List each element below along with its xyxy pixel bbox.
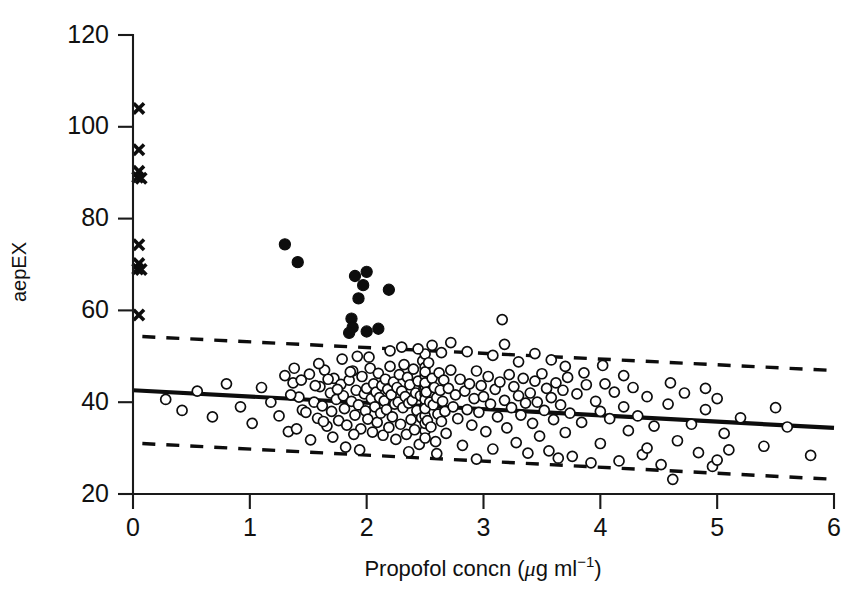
data-point-open [368, 427, 378, 437]
data-point-open [502, 423, 512, 433]
y-tick-label: 100 [67, 111, 109, 139]
data-point-open [327, 406, 337, 416]
x-tick-label: 0 [126, 513, 140, 541]
data-point-open [712, 455, 722, 465]
y-axis-ticks: 20406080100120 [67, 20, 133, 507]
y-axis-title: aepEX [8, 242, 30, 302]
data-point-open [577, 417, 587, 427]
data-point-open [257, 383, 267, 393]
data-point-open [462, 347, 472, 357]
data-point-cross [134, 310, 144, 320]
data-point-open [806, 450, 816, 460]
data-point-open [438, 396, 448, 406]
data-point-open [314, 359, 324, 369]
data-point-open [693, 448, 703, 458]
data-point-open [649, 421, 659, 431]
data-point-open [771, 403, 781, 413]
data-point-open [352, 351, 362, 361]
data-point-open [177, 405, 187, 415]
open-circle-series [161, 315, 816, 485]
y-tick-label: 80 [81, 203, 109, 231]
data-point-open [628, 383, 638, 393]
x-tick-label: 4 [593, 513, 607, 541]
data-point-open [462, 405, 472, 415]
data-point-open [446, 365, 456, 375]
data-point-open [476, 381, 486, 391]
data-point-open [736, 413, 746, 423]
data-point-open [700, 383, 710, 393]
data-point-open [759, 441, 769, 451]
data-point-filled [361, 326, 372, 337]
data-point-open [623, 426, 633, 436]
data-point-open [782, 422, 792, 432]
data-point-open [446, 338, 456, 348]
y-tick-label: 40 [81, 387, 109, 415]
data-point-open [668, 474, 678, 484]
data-point-open [317, 401, 327, 411]
data-point-filled [358, 280, 369, 291]
data-point-open [221, 379, 231, 389]
data-point-open [560, 427, 570, 437]
data-point-open [497, 315, 507, 325]
data-point-filled [292, 257, 303, 268]
data-point-open [528, 418, 538, 428]
data-point-open [663, 399, 673, 409]
data-point-open [483, 371, 493, 381]
data-point-open [436, 416, 446, 426]
x-tick-label: 5 [710, 513, 724, 541]
data-point-open [385, 361, 395, 371]
data-point-open [396, 419, 406, 429]
data-point-open [292, 424, 302, 434]
data-point-open [310, 381, 320, 391]
x-tick-label: 3 [477, 513, 491, 541]
data-point-open [556, 400, 566, 410]
data-point-open [642, 443, 652, 453]
data-point-open [385, 346, 395, 356]
data-point-open [493, 412, 503, 422]
data-point-cross [134, 145, 144, 155]
data-point-cross [134, 103, 144, 113]
data-point-open [274, 411, 284, 421]
data-point-open [586, 458, 596, 468]
data-point-open [516, 410, 526, 420]
data-point-open [724, 445, 734, 455]
data-point-open [565, 408, 575, 418]
data-point-open [161, 394, 171, 404]
data-point-open [464, 379, 474, 389]
data-point-open [364, 352, 374, 362]
data-point-open [500, 339, 510, 349]
y-tick-label: 120 [67, 20, 109, 48]
data-point-filled [361, 266, 372, 277]
cross-marker-series [132, 103, 146, 320]
data-point-cross [134, 240, 144, 250]
data-point-filled [349, 270, 360, 281]
data-point-open [507, 403, 517, 413]
data-point-open [598, 360, 608, 370]
data-point-open [679, 388, 689, 398]
data-point-open [619, 371, 629, 381]
data-point-open [357, 371, 367, 381]
data-point-open [207, 412, 217, 422]
y-tick-label: 60 [81, 295, 109, 323]
data-point-open [581, 380, 591, 390]
data-point-open [467, 420, 477, 430]
data-point-open [399, 360, 409, 370]
data-point-open [408, 364, 418, 374]
data-point-open [455, 374, 465, 384]
data-point-open [642, 392, 652, 402]
data-point-open [595, 439, 605, 449]
data-point-open [420, 433, 430, 443]
data-point-open [546, 355, 556, 365]
data-point-open [488, 444, 498, 454]
data-point-open [560, 361, 570, 371]
data-point-open [514, 357, 524, 367]
data-point-open [296, 375, 306, 385]
data-point-open [453, 414, 463, 424]
data-point-open [700, 405, 710, 415]
data-point-open [719, 428, 729, 438]
data-point-open [521, 398, 531, 408]
data-point-open [563, 372, 573, 382]
data-point-open [413, 344, 423, 354]
data-point-open [332, 384, 342, 394]
data-point-open [410, 425, 420, 435]
